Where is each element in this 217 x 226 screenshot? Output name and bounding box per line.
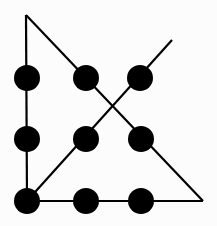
dot-r2-c2 [73,126,99,152]
line-left-vertical [26,15,27,201]
dot-r3-c2 [73,188,99,214]
line-ascending-diagonal [27,40,172,201]
dot-r3-c1 [14,188,40,214]
lines-layer [26,15,203,201]
diagram-canvas [0,0,217,226]
nine-dots-diagram [0,0,217,226]
dot-r1-c1 [14,65,40,91]
dots-layer [14,65,154,214]
dot-r1-c2 [73,65,99,91]
dot-r3-c3 [128,188,154,214]
dot-r2-c3 [128,126,154,152]
dot-r1-c3 [127,65,153,91]
dot-r2-c1 [14,126,40,152]
